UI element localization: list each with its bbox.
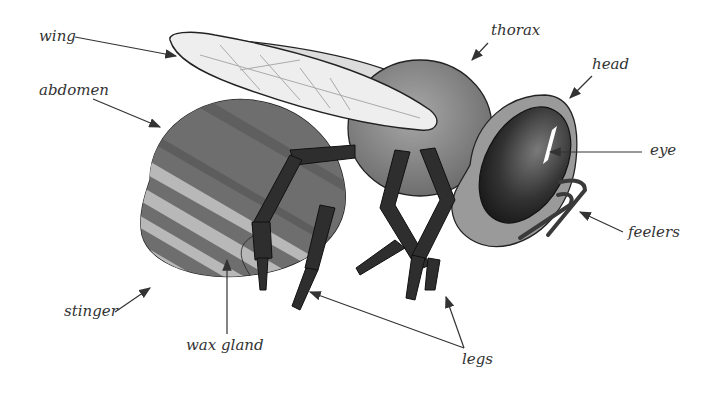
- label-stinger: stinger: [64, 302, 118, 320]
- label-feelers: feelers: [628, 223, 680, 241]
- label-thorax: thorax: [491, 21, 540, 39]
- label-eye: eye: [650, 141, 676, 159]
- label-legs: legs: [462, 350, 493, 368]
- bee-diagram: wing abdomen thorax head eye feelers sti…: [0, 0, 710, 394]
- label-wax-gland: wax gland: [186, 336, 264, 354]
- label-abdomen: abdomen: [39, 81, 109, 99]
- label-wing: wing: [39, 27, 76, 45]
- label-head: head: [592, 55, 629, 73]
